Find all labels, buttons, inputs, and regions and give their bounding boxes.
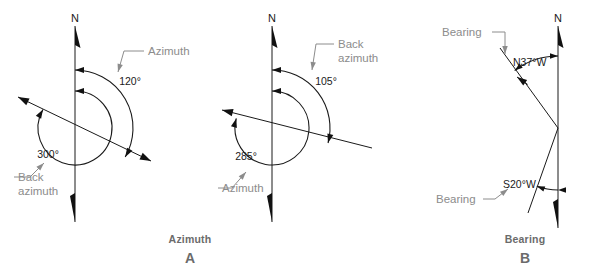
survey-line-arrow-end-a [139,153,151,161]
bearing-line-s20w-arc-arrow-2 [537,186,545,191]
north-label-a: N [71,12,79,24]
bearing-line-n37w-callout-line-0: Bearing [442,26,482,38]
south-marker-a2 [267,193,272,222]
bearing-line-s20w-callout-arrow [500,189,508,196]
bearing-line-n37w-callout-leader [492,32,505,54]
angle-value-back-azimuth-a: 300° [37,148,59,160]
back-azimuth-callout-line-0-a: Back [18,171,44,183]
north-arrowhead-a [75,26,81,48]
caption-label-a: Azimuth [169,233,212,245]
caption-letter-b: B [520,250,530,266]
north-label-a2: N [268,12,276,24]
bearing-line-s20w-label: S20°W [503,178,536,190]
angle-value-back-azimuth-a2: 105° [315,75,337,87]
back-azimuth-callout-line-0-a2: Back [338,38,364,50]
north-arrowhead-a2 [272,26,278,48]
back-azimuth-callout-line-1-a: azimuth [18,185,58,197]
angle-arc-start-arrow-back-azimuth-a2 [272,67,281,73]
back-azimuth-callout-leader-a2 [312,44,334,70]
caption-letter-a: A [185,250,195,266]
survey-line-arrow-start-a [18,97,30,105]
angle-arc-end-arrow-back-azimuth-a [36,110,43,119]
bearing-line-n37w-arc-arrow-1 [550,53,558,58]
bearing-line-s20w-callout-line-0: Bearing [436,193,476,205]
south-marker-a [70,193,75,222]
bearing-line-s20w-arc-arrow-1 [558,187,566,192]
angle-arc-start-arrow-back-azimuth-a [75,88,84,94]
bearing-line-n37w-label: N37°W [513,56,546,68]
survey-line-arrow-start-a2 [222,109,234,116]
back-azimuth-callout-leader-arrow-a2 [311,62,316,70]
azimuth-bearing-figure: N120°300°AzimuthBackazimuthAzimuthAN105°… [0,0,595,275]
azimuth-callout-line-0-a2: Azimuth [222,182,264,194]
north-arrowhead-b [558,26,564,48]
angle-arc-start-arrow-azimuth-a2 [272,88,281,94]
north-label-b: N [554,12,562,24]
angle-value-azimuth-a: 120° [119,75,141,87]
caption-label-b: Bearing [505,233,546,245]
azimuth-callout-leader-a [118,51,144,72]
back-azimuth-callout-line-1-a2: azimuth [338,52,378,64]
azimuth-callout-line-0-a: Azimuth [148,45,190,57]
azimuth-callout-leader-arrow-a [118,64,123,72]
bearing-line-s20w-b [528,128,558,213]
survey-line-a2 [222,110,372,148]
angle-arc-end-arrow-azimuth-a2 [231,118,237,127]
angle-value-azimuth-a2: 285° [235,150,257,162]
angle-arc-start-arrow-azimuth-a [75,67,84,73]
south-marker-b [553,199,558,228]
